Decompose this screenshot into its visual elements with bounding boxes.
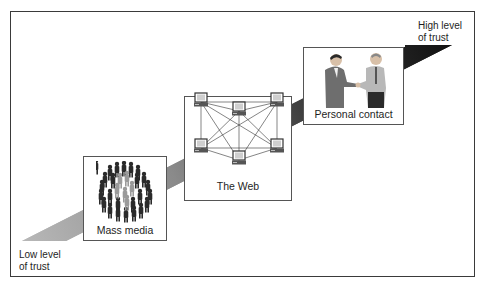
- high-trust-label-line1: High level: [418, 20, 462, 32]
- network-computers-icon: [185, 90, 293, 170]
- handshake-icon: [314, 50, 394, 108]
- mass-media-box: Mass media: [83, 156, 167, 241]
- low-trust-label-line1: Low level: [19, 249, 61, 261]
- personal-contact-box: Personal contact: [303, 47, 404, 125]
- low-trust-label-line2: of trust: [19, 261, 61, 273]
- high-trust-label-line2: of trust: [418, 32, 462, 44]
- high-trust-label: High level of trust: [418, 20, 462, 44]
- the-web-box: The Web: [184, 96, 292, 201]
- the-web-label: The Web: [185, 180, 291, 192]
- personal-contact-label: Personal contact: [304, 108, 403, 120]
- crowd-icon: [96, 161, 156, 223]
- low-trust-label: Low level of trust: [19, 249, 61, 273]
- mass-media-label: Mass media: [84, 224, 166, 236]
